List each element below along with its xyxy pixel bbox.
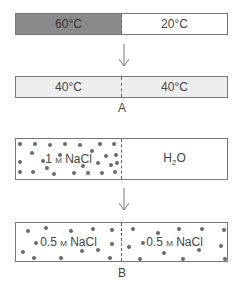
concentration-label: 1 M NaCl (45, 152, 92, 166)
cold-temperature: 20°C (161, 17, 188, 31)
left-temperature: 40°C (55, 80, 82, 94)
salt-compartment: 1 M NaCl (16, 139, 122, 179)
right-concentration-label: 0.5 M NaCl (146, 235, 203, 249)
water-compartment: H2O (122, 139, 227, 179)
right-temperature: 40°C (161, 80, 188, 94)
heat-box-before: 60°C 20°C (15, 13, 228, 35)
left-concentration-label: 0.5 M NaCl (40, 235, 97, 249)
left-equilibrium-compartment: 40°C (16, 77, 122, 97)
diffusion-box-before: 1 M NaCl H2O (15, 138, 228, 180)
cold-compartment: 20°C (122, 14, 227, 34)
down-arrow-icon (119, 188, 129, 212)
hot-temperature: 60°C (55, 17, 82, 31)
heat-box-after: 40°C 40°C (15, 76, 228, 98)
right-equilibrium-compartment: 40°C (122, 77, 227, 97)
panel-label-a: A (112, 101, 132, 115)
diffusion-box-after: 0.5 M NaCl 0.5 M NaCl (15, 222, 228, 262)
down-arrow-icon (119, 44, 129, 68)
left-diluted-compartment: 0.5 M NaCl (16, 223, 122, 261)
panel-label-b: B (112, 266, 132, 280)
right-diluted-compartment: 0.5 M NaCl (122, 223, 227, 261)
water-label: H2O (163, 151, 185, 167)
hot-compartment: 60°C (16, 14, 122, 34)
